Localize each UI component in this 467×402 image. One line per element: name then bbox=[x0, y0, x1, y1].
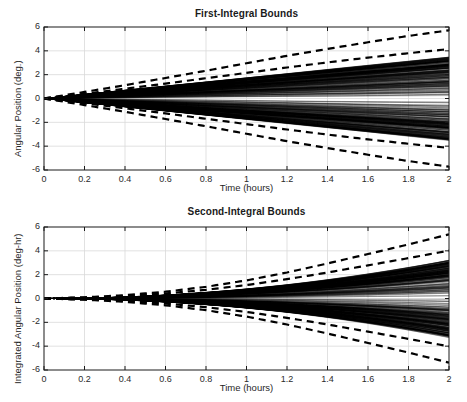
xtick-label: 0 bbox=[29, 174, 59, 184]
ytick-label: -2 bbox=[18, 316, 40, 326]
axes-first-integral bbox=[0, 0, 467, 200]
xtick-label: 1.6 bbox=[353, 374, 383, 384]
axes-second-integral bbox=[0, 196, 467, 402]
ytick-label: 2 bbox=[18, 69, 40, 79]
xtick-label: 2 bbox=[434, 174, 464, 184]
ytick-label: 6 bbox=[18, 21, 40, 31]
ytick-label: 0 bbox=[18, 93, 40, 103]
ytick-label: 6 bbox=[18, 221, 40, 231]
xtick-label: 0.2 bbox=[70, 174, 100, 184]
ytick-label: -2 bbox=[18, 116, 40, 126]
xtick-label: 0.6 bbox=[151, 374, 181, 384]
xtick-label: 1.8 bbox=[394, 174, 424, 184]
ytick-label: -4 bbox=[18, 340, 40, 350]
xtick-label: 1 bbox=[232, 374, 262, 384]
xtick-label: 0 bbox=[29, 374, 59, 384]
xtick-label: 0.2 bbox=[70, 374, 100, 384]
xtick-label: 0.4 bbox=[110, 374, 140, 384]
xtick-label: 1 bbox=[232, 174, 262, 184]
ytick-label: -6 bbox=[18, 364, 40, 374]
xtick-label: 0.8 bbox=[191, 174, 221, 184]
ytick-label: 4 bbox=[18, 245, 40, 255]
xtick-label: 1.6 bbox=[353, 174, 383, 184]
panel-second-integral: Second-Integral Bounds Time (hours) Inte… bbox=[0, 196, 467, 402]
xtick-label: 0.8 bbox=[191, 374, 221, 384]
xtick-label: 1.2 bbox=[272, 374, 302, 384]
xtick-label: 1.8 bbox=[394, 374, 424, 384]
yaxis-title-second-integral: Integrated Angular Position (deg-hr) bbox=[12, 233, 23, 384]
ytick-label: -4 bbox=[18, 140, 40, 150]
ytick-label: 0 bbox=[18, 293, 40, 303]
xtick-label: 0.4 bbox=[110, 174, 140, 184]
xtick-label: 2 bbox=[434, 374, 464, 384]
ytick-label: 4 bbox=[18, 45, 40, 55]
xtick-label: 1.4 bbox=[313, 174, 343, 184]
panel-first-integral: First-Integral Bounds Time (hours) Angul… bbox=[0, 0, 467, 200]
figure-canvas: First-Integral Bounds Time (hours) Angul… bbox=[0, 0, 467, 402]
ytick-label: 2 bbox=[18, 269, 40, 279]
xtick-label: 0.6 bbox=[151, 174, 181, 184]
xtick-label: 1.4 bbox=[313, 374, 343, 384]
xtick-label: 1.2 bbox=[272, 174, 302, 184]
ytick-label: -6 bbox=[18, 164, 40, 174]
